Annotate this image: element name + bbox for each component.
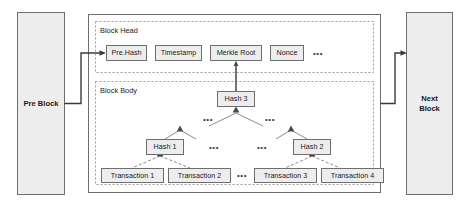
head-field-merkle-root[interactable]: Merkle Root: [211, 46, 262, 61]
head-field-nonce[interactable]: Nonce: [271, 46, 304, 61]
merkle-node-hash-1[interactable]: Hash 1: [147, 140, 184, 155]
next-block-label-line2: Block: [419, 104, 440, 113]
pre-block-label: Pre Block: [23, 99, 59, 108]
diagram-canvas: Pre Block Next Block Block Head P: [0, 0, 468, 207]
next-link-path: [381, 53, 402, 104]
merkle-root-label: Merkle Root: [217, 48, 256, 57]
block-head-label: Block Head: [100, 26, 138, 35]
block-body-section: Block Body: [96, 61, 384, 185]
merkle-ellipsis-upper-left: •••: [203, 115, 213, 124]
merkle-node-hash-2[interactable]: Hash 2: [294, 140, 331, 155]
edge-hash3-arrowhead: [233, 107, 240, 113]
merkle-leaf-transaction-2[interactable]: Transaction 2: [169, 169, 231, 183]
block-body-label: Block Body: [100, 86, 137, 95]
merkle-tree-edges: [132, 107, 340, 169]
blockchain-diagram: Pre Block Next Block Block Head P: [0, 0, 468, 207]
prev-link-path: [65, 53, 102, 104]
edge-hash2-tx3: [285, 156, 312, 168]
tx4-label: Transaction 4: [331, 171, 374, 180]
head-field-timestamp[interactable]: Timestamp: [156, 46, 202, 61]
merkle-ellipsis-mid-right: •••: [257, 143, 267, 152]
timestamp-label: Timestamp: [161, 48, 196, 57]
pre-block[interactable]: Pre Block: [18, 13, 65, 195]
merkle-leaf-transaction-3[interactable]: Transaction 3: [255, 169, 317, 183]
edge-hash1-tx1: [132, 156, 160, 168]
tx2-label: Transaction 2: [178, 171, 221, 180]
merkle-leaf-transaction-4[interactable]: Transaction 4: [322, 169, 384, 183]
merkle-node-hash-3[interactable]: Hash 3: [218, 92, 255, 107]
pre-hash-label: Pre.Hash: [112, 48, 142, 57]
tx3-label: Transaction 3: [264, 171, 307, 180]
hash3-merkle-arrowhead: [234, 61, 239, 67]
tx1-label: Transaction 1: [111, 171, 154, 180]
hash2-label: Hash 2: [301, 142, 324, 151]
merkle-ellipsis-leaf-gap: •••: [237, 171, 247, 180]
edge-hash1-tx2: [160, 156, 190, 168]
edge-hash3-right: [236, 113, 263, 126]
merkle-ellipsis-mid-left: •••: [209, 143, 219, 152]
edge-hash2-up-arrowhead: [288, 126, 295, 132]
head-ellipsis: •••: [313, 49, 323, 58]
merkle-leaf-transaction-1[interactable]: Transaction 1: [102, 169, 164, 183]
nonce-label: Nonce: [277, 48, 298, 57]
edge-hash1-up-arrowhead: [177, 126, 184, 132]
next-block[interactable]: Next Block: [407, 13, 453, 195]
block-to-next-block-connector: [381, 50, 408, 103]
head-field-pre-hash[interactable]: Pre.Hash: [107, 46, 147, 61]
next-block-label-line1: Next: [421, 94, 438, 103]
hash3-label: Hash 3: [225, 94, 248, 103]
merkle-ellipsis-upper-right: •••: [265, 115, 275, 124]
hash1-label: Hash 1: [154, 142, 177, 151]
pre-block-to-prehash-connector: [65, 50, 107, 103]
prev-link-arrowhead: [100, 50, 107, 56]
edge-hash2-tx4: [312, 156, 340, 168]
